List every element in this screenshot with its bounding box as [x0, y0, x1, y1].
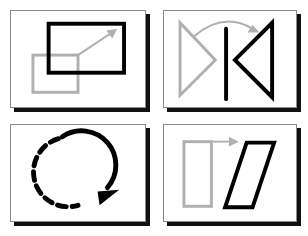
panel-reflection: [163, 10, 297, 108]
translation-icon: [11, 11, 145, 107]
panel-shear: [163, 124, 297, 222]
rotation-icon: [11, 125, 145, 221]
panel-translation: [10, 10, 146, 108]
reflection-icon: [164, 11, 296, 107]
panel-rotation: [10, 124, 146, 222]
shear-icon: [164, 125, 296, 221]
